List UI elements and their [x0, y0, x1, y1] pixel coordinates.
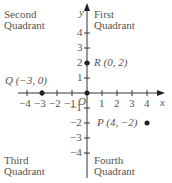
y-tick-label: 3 [77, 42, 83, 53]
x-tick-label: −3 [34, 98, 46, 109]
x-tick-label: −2 [49, 98, 61, 109]
x-tick-label: 2 [114, 98, 120, 109]
y-tick-label: 4 [77, 27, 83, 38]
quadrant-label-line: Quadrant [4, 20, 45, 31]
x-tick-label: −4 [19, 98, 31, 109]
y-tick-label: −4 [70, 147, 82, 158]
first-quadrant-label: First Quadrant [94, 9, 135, 31]
quadrant-label-line: Quadrant [94, 20, 135, 31]
x-tick-label: 4 [144, 98, 150, 109]
fourth-quadrant-label: Fourth Quadrant [94, 155, 135, 177]
quadrant-label-line: Quadrant [94, 166, 135, 177]
quadrant-label-line: Quadrant [4, 166, 45, 177]
point-p-label: P (4, −2) [97, 117, 138, 128]
y-axis-label: y [79, 7, 84, 18]
y-tick-label: 1 [77, 72, 83, 83]
x-tick-label: 1 [99, 98, 105, 109]
y-tick-label: −2 [70, 117, 82, 128]
third-quadrant-label: Third Quadrant [4, 155, 45, 177]
x-axis-label: x [160, 97, 165, 108]
y-tick-label: −3 [70, 132, 82, 143]
point-r-label: R (0, 2) [94, 57, 127, 68]
second-quadrant-label: Second Quadrant [4, 9, 45, 31]
point-p-dot [145, 121, 150, 126]
y-tick-label: 2 [77, 57, 83, 68]
x-tick-label: 3 [129, 98, 135, 109]
point-q-dot [40, 91, 45, 96]
point-r-dot [85, 61, 90, 66]
y-tick-label: −1 [70, 102, 82, 113]
y-axis-arrow-icon [84, 3, 90, 11]
point-q-label: Q (−3, 0) [5, 75, 47, 86]
